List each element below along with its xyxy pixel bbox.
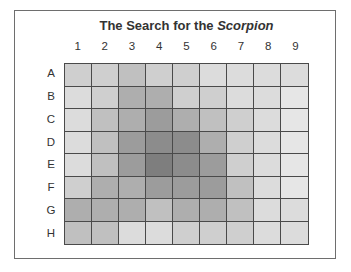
cell-G1 [65,199,92,222]
cell-C8 [254,109,281,132]
cell-C3 [119,109,146,132]
column-label-1: 1 [64,40,91,52]
cell-B8 [254,87,281,110]
cell-G3 [119,199,146,222]
row-label-H: H [44,227,58,239]
column-label-8: 8 [255,40,282,52]
cell-H3 [119,222,146,245]
cell-E4 [146,154,173,177]
cell-E7 [227,154,254,177]
cell-C6 [200,109,227,132]
cell-A9 [281,64,308,87]
cell-F6 [200,177,227,200]
cell-D7 [227,132,254,155]
column-label-2: 2 [91,40,118,52]
cell-G4 [146,199,173,222]
cell-H9 [281,222,308,245]
row-label-F: F [44,181,58,193]
row-label-C: C [44,113,58,125]
cell-E1 [65,154,92,177]
column-label-3: 3 [118,40,145,52]
cell-A4 [146,64,173,87]
cell-C4 [146,109,173,132]
cell-C7 [227,109,254,132]
cell-E2 [92,154,119,177]
chart-title-italic: Scorpion [217,18,273,33]
row-label-B: B [44,90,58,102]
cell-C9 [281,109,308,132]
cell-D8 [254,132,281,155]
cell-A2 [92,64,119,87]
cell-D6 [200,132,227,155]
cell-A3 [119,64,146,87]
cell-A6 [200,64,227,87]
cell-B1 [65,87,92,110]
cell-C2 [92,109,119,132]
cell-B6 [200,87,227,110]
column-label-9: 9 [282,40,309,52]
cell-D9 [281,132,308,155]
cell-B2 [92,87,119,110]
cell-B7 [227,87,254,110]
chart-title-plain: The Search for the [99,18,217,33]
cell-H5 [173,222,200,245]
cell-H7 [227,222,254,245]
cell-F2 [92,177,119,200]
column-label-4: 4 [146,40,173,52]
cell-A7 [227,64,254,87]
cell-F7 [227,177,254,200]
column-label-7: 7 [227,40,254,52]
cell-F3 [119,177,146,200]
cell-F5 [173,177,200,200]
cell-E6 [200,154,227,177]
cell-H4 [146,222,173,245]
cell-C5 [173,109,200,132]
cell-E3 [119,154,146,177]
cell-F9 [281,177,308,200]
column-label-5: 5 [173,40,200,52]
cell-G8 [254,199,281,222]
row-label-D: D [44,136,58,148]
heatmap-grid [64,63,309,245]
cell-H6 [200,222,227,245]
cell-G5 [173,199,200,222]
cell-D2 [92,132,119,155]
row-label-E: E [44,158,58,170]
cell-G9 [281,199,308,222]
cell-C1 [65,109,92,132]
cell-E8 [254,154,281,177]
cell-E9 [281,154,308,177]
cell-G7 [227,199,254,222]
column-label-6: 6 [200,40,227,52]
cell-E5 [173,154,200,177]
cell-H1 [65,222,92,245]
cell-B9 [281,87,308,110]
cell-A5 [173,64,200,87]
cell-H8 [254,222,281,245]
row-label-A: A [44,67,58,79]
cell-D3 [119,132,146,155]
cell-A8 [254,64,281,87]
cell-D1 [65,132,92,155]
cell-B4 [146,87,173,110]
cell-G6 [200,199,227,222]
chart-title: The Search for the Scorpion [64,18,309,33]
cell-B5 [173,87,200,110]
cell-A1 [65,64,92,87]
cell-F4 [146,177,173,200]
row-label-G: G [44,204,58,216]
cell-H2 [92,222,119,245]
cell-F8 [254,177,281,200]
cell-D4 [146,132,173,155]
cell-D5 [173,132,200,155]
cell-G2 [92,199,119,222]
cell-B3 [119,87,146,110]
cell-F1 [65,177,92,200]
